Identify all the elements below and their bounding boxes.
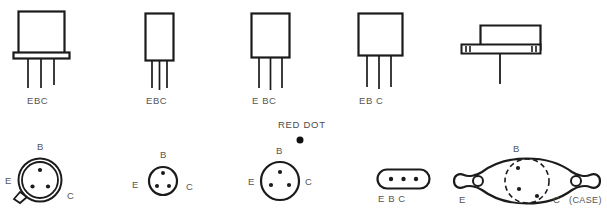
pkg-to3-side-view xyxy=(462,26,541,85)
case-inline-oval: E B C xyxy=(378,170,430,205)
pin-label-c-2: C xyxy=(186,181,193,192)
pin-label-b-5: B xyxy=(513,143,519,154)
pinout-label-oval: E B C xyxy=(378,193,406,204)
case-metal-can-with-tab: B E C xyxy=(5,141,74,203)
pkg-wide-plastic: EB C xyxy=(359,14,403,107)
pin-label-b-1: B xyxy=(37,141,43,152)
case-to3-bottom-view: B E C (CASE) xyxy=(454,143,602,205)
red-dot-marker xyxy=(297,137,304,144)
red-dot-label: RED DOT xyxy=(278,119,326,130)
pin-label-c-5: C xyxy=(553,194,560,205)
pin-label-e-5: E xyxy=(459,194,465,205)
case-note-label: (CASE) xyxy=(569,195,602,205)
case-metal-can-red-dot: RED DOT B E C xyxy=(248,119,326,200)
cut-off-text-row xyxy=(0,214,607,222)
pinout-label-2: EBC xyxy=(146,95,167,106)
pinout-label-1: EBC xyxy=(27,95,48,106)
pin-label-e-2: E xyxy=(132,179,138,190)
pinout-label-4: EB C xyxy=(359,95,384,106)
transistor-package-diagram: EBC EBC E BC EB C B xyxy=(0,0,607,222)
case-small-metal-can: B E C xyxy=(132,149,193,195)
pkg-medium-plastic: E BC xyxy=(252,14,290,107)
pin-label-b-3: B xyxy=(276,145,282,156)
pin-label-c-1: C xyxy=(67,190,74,201)
pin-label-e-1: E xyxy=(5,175,11,186)
diagram-canvas: EBC EBC E BC EB C B xyxy=(0,0,607,222)
pinout-label-3: E BC xyxy=(252,95,277,106)
pkg-flanged-metal-can: EBC xyxy=(14,12,70,107)
pin-label-c-3: C xyxy=(305,176,312,187)
pin-label-b-2: B xyxy=(160,149,166,160)
pkg-tall-plastic: EBC xyxy=(146,14,174,107)
pin-label-e-3: E xyxy=(248,176,254,187)
